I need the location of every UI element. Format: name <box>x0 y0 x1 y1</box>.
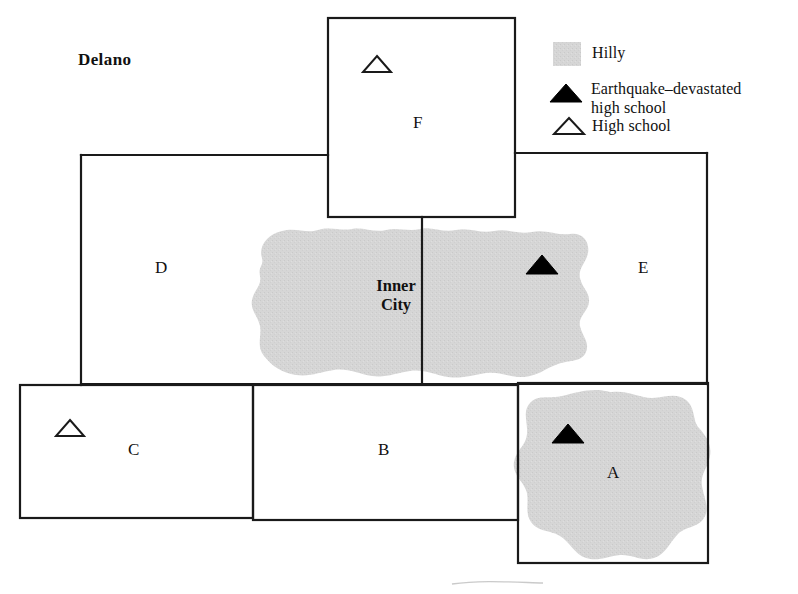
map-figure: Delano Inner City A B C D E F Hilly Eart… <box>0 0 798 594</box>
filled-triangle-icon <box>550 84 582 102</box>
high-school-icon-region-c[interactable] <box>56 420 84 436</box>
legend-label-high-school: High school <box>592 117 671 136</box>
region-label-a: A <box>607 463 619 483</box>
region-label-d: D <box>155 258 167 278</box>
high-school-icon-region-f[interactable] <box>363 56 391 72</box>
legend-symbols <box>550 42 584 134</box>
region-label-e: E <box>638 258 649 278</box>
legend-label-hilly: Hilly <box>592 44 625 63</box>
scan-artifact-streak <box>452 582 543 584</box>
map-title-delano: Delano <box>78 50 131 70</box>
inner-city-label: Inner City <box>366 276 426 315</box>
outline-triangle-icon <box>554 118 584 134</box>
region-label-f: F <box>413 113 423 133</box>
legend-label-earthquake-devastated-high-school: Earthquake–devastated high school <box>591 80 741 118</box>
region-label-c: C <box>128 440 140 460</box>
hilly-swatch-icon <box>553 42 581 66</box>
region-label-b: B <box>378 440 390 460</box>
